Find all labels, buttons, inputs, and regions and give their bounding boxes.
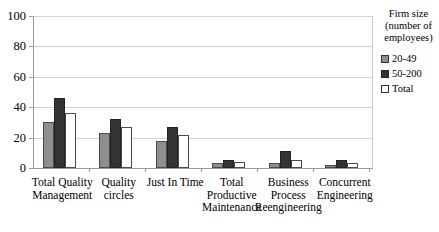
x-axis-line: [33, 168, 373, 169]
bar: [121, 127, 132, 168]
bar: [110, 119, 121, 168]
x-tick-mark: [313, 168, 314, 172]
bar-chart: 100 80 60 40 20 0 Total Quality Manageme…: [0, 0, 439, 232]
y-tick-label-80: 80: [14, 40, 27, 52]
legend: Firm size (number of employees) 20-4950-…: [378, 8, 439, 98]
legend-title: Firm size (number of employees): [378, 8, 439, 44]
bar-group: [325, 16, 358, 168]
bar: [280, 151, 291, 168]
bar: [178, 135, 189, 168]
legend-swatch-icon: [381, 55, 389, 63]
bar-group: [212, 16, 245, 168]
bar-group: [99, 16, 132, 168]
y-tick-label-100: 100: [7, 10, 26, 22]
x-tick-mark: [89, 168, 90, 172]
bar-group: [269, 16, 302, 168]
x-axis-labels: Total Quality ManagementQuality circlesJ…: [34, 176, 379, 232]
bar: [99, 133, 110, 168]
bar: [65, 113, 76, 168]
y-tick-label-20: 20: [14, 132, 27, 144]
bar: [54, 98, 65, 168]
legend-item[interactable]: 50-200: [381, 68, 439, 79]
legend-entries: 20-4950-200Total: [378, 53, 439, 94]
legend-swatch-icon: [381, 70, 389, 78]
legend-item-label: 20-49: [392, 53, 417, 64]
legend-item-label: 50-200: [392, 68, 422, 79]
y-tick-label-0: 0: [20, 162, 26, 174]
x-tick-mark: [257, 168, 258, 172]
y-axis: 100 80 60 40 20 0: [0, 0, 30, 232]
bar-group: [156, 16, 189, 168]
bar: [269, 163, 280, 168]
bar: [156, 141, 167, 168]
legend-swatch-icon: [381, 85, 389, 93]
bar: [291, 160, 302, 168]
x-tick-mark: [201, 168, 202, 172]
bar-group: [43, 16, 76, 168]
y-tick-label-60: 60: [14, 71, 27, 83]
y-tick-label-40: 40: [14, 101, 27, 113]
bar: [43, 122, 54, 168]
bar: [167, 127, 178, 168]
legend-item[interactable]: Total: [381, 83, 439, 94]
x-tick-mark: [145, 168, 146, 172]
legend-item-label: Total: [392, 83, 413, 94]
bar: [347, 163, 358, 168]
bar: [212, 163, 223, 168]
bar: [223, 160, 234, 168]
legend-item[interactable]: 20-49: [381, 53, 439, 64]
bar: [325, 165, 336, 168]
bar: [234, 162, 245, 168]
plot-area: [34, 16, 373, 168]
bar: [336, 160, 347, 168]
x-tick-mark: [369, 168, 370, 172]
x-axis-label: Concurrent Engineering: [311, 176, 380, 201]
